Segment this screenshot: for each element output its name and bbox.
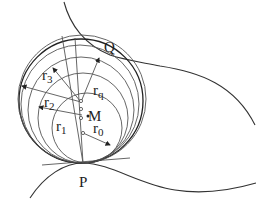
center-point-r2 xyxy=(79,107,82,110)
label-p: P xyxy=(79,174,87,190)
center-point-r3 xyxy=(79,99,82,102)
tangent-line-p xyxy=(42,158,130,165)
label-r2: r2 xyxy=(44,94,55,112)
upper-curve xyxy=(64,2,255,125)
lower-curve xyxy=(30,163,256,198)
label-rq: rq xyxy=(93,82,104,100)
label-r3: r3 xyxy=(42,67,53,85)
center-point-r0 xyxy=(81,131,84,134)
curvature-circles-diagram: Q P M r3 r2 r1 r0 rq xyxy=(0,0,271,208)
label-q: Q xyxy=(104,39,115,55)
label-r1: r1 xyxy=(56,118,67,136)
center-point-r1 xyxy=(79,116,82,119)
